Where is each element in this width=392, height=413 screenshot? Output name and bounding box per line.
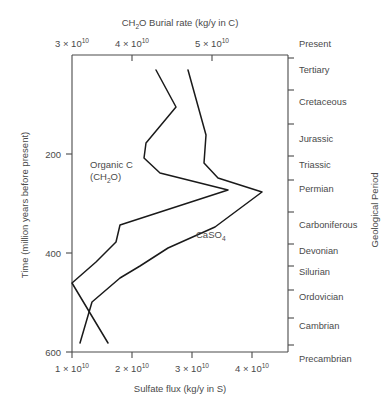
- right-axis-title: Geological Period: [369, 173, 380, 248]
- period-label-cretaceous: Cretaceous: [299, 97, 347, 107]
- top-axis-title: CH2O Burial rate (kg/y in C): [122, 17, 239, 30]
- top-tick-label-2: 5 × 1010: [195, 37, 229, 49]
- bottom-tick-label-0: 1 × 1010: [55, 362, 89, 374]
- bottom-tick-label-2: 3 × 1010: [175, 362, 209, 374]
- period-label-tertiary: Tertiary: [299, 65, 330, 75]
- period-label-present: Present: [299, 39, 331, 49]
- top-tick-label-0: 3 × 1010: [55, 37, 89, 49]
- series-line-caso4: [80, 70, 262, 343]
- top-tick-label-1: 4 × 1010: [115, 37, 149, 49]
- period-label-devonian: Devonian: [299, 246, 338, 256]
- period-label-silurian: Silurian: [299, 267, 330, 277]
- left-axis-title: Time (million years before present): [19, 132, 30, 278]
- bottom-tick-label-1: 2 × 1010: [115, 362, 149, 374]
- chart-figure: CH2O Burial rate (kg/y in C) 3 × 1010 4 …: [0, 0, 392, 413]
- left-tick-label-200: 200: [45, 149, 61, 160]
- period-label-cambrian: Cambrian: [299, 321, 339, 331]
- period-label-carboniferous: Carboniferous: [299, 220, 358, 230]
- series-line-organic-c: [72, 70, 228, 343]
- bottom-axis-title: Sulfate flux (kg/y in S): [134, 383, 226, 394]
- period-label-permian: Permian: [299, 184, 334, 194]
- bottom-tick-label-3: 4 × 1010: [235, 362, 269, 374]
- series-label-caso4: CaSO4: [196, 229, 226, 242]
- left-tick-label-400: 400: [45, 248, 61, 259]
- period-label-precambrian: Precambrian: [299, 354, 352, 364]
- period-label-jurassic: Jurassic: [299, 134, 333, 144]
- chart-svg: CH2O Burial rate (kg/y in C) 3 × 1010 4 …: [0, 0, 392, 413]
- period-label-ordovician: Ordovician: [299, 292, 343, 302]
- period-label-triassic: Triassic: [299, 160, 331, 170]
- series-label-organic-c: Organic C(CH2O): [90, 159, 133, 184]
- left-tick-label-600: 600: [45, 347, 61, 358]
